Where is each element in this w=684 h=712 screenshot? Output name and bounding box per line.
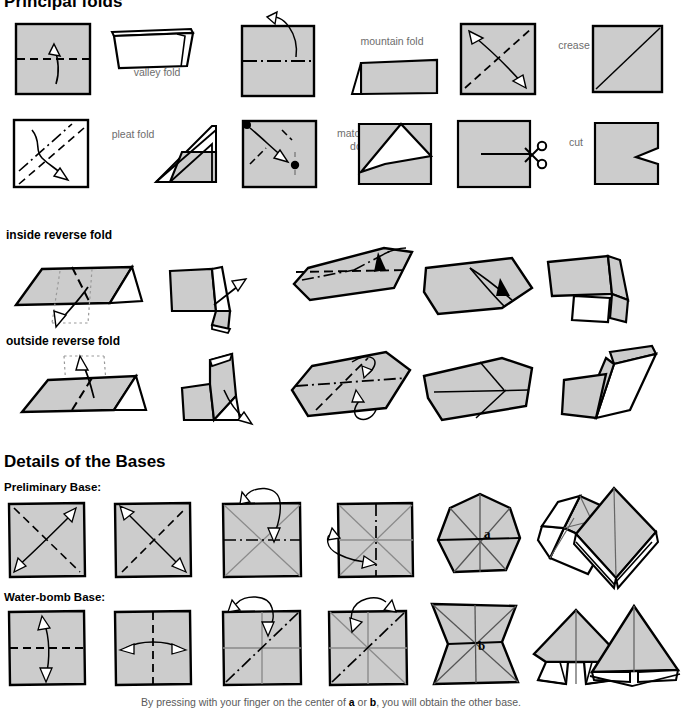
diagram-outside-reverse-step5: [560, 344, 660, 428]
diagram-waterbomb-step5: b: [428, 600, 522, 690]
diagram-valley-fold-step1: [14, 22, 94, 98]
diagram-waterbomb-step7: [588, 598, 684, 694]
diagram-crease-step1: [459, 22, 539, 98]
diagram-mountain-fold-step1: [239, 4, 325, 100]
diagram-outside-reverse-step3: [290, 344, 416, 434]
marker-a: a: [484, 526, 491, 541]
section-title-inside-reverse-fold: inside reverse fold: [6, 228, 112, 242]
diagram-preliminary-step5: a: [432, 488, 528, 582]
label-valley-fold: valley fold: [118, 66, 196, 79]
diagram-inside-reverse-step2: [168, 253, 274, 335]
diagram-waterbomb-step4: [324, 592, 414, 688]
page-title: Principal folds: [4, 0, 123, 12]
diagram-match-dots-step1: [240, 118, 320, 190]
diagram-crease-step2: [591, 24, 665, 96]
diagram-outside-reverse-step2: [180, 350, 290, 432]
subtitle-waterbomb-base: Water-bomb Base:: [4, 591, 105, 603]
diagram-inside-reverse-step1: [14, 253, 154, 333]
section-title-details-of-bases: Details of the Bases: [4, 452, 166, 472]
diagram-outside-reverse-step1: [20, 352, 160, 430]
diagram-inside-reverse-step3: [288, 240, 416, 330]
diagram-waterbomb-step3: [218, 592, 308, 688]
section-title-outside-reverse-fold: outside reverse fold: [6, 334, 120, 348]
diagram-inside-reverse-step4: [420, 252, 538, 328]
diagram-preliminary-step3: [218, 484, 308, 580]
label-mountain-fold: mountain fold: [349, 35, 435, 48]
diagram-pleat-fold-step2: [150, 120, 238, 188]
diagram-preliminary-step2: [112, 500, 196, 580]
diagram-preliminary-step4: [324, 500, 416, 582]
marker-b: b: [478, 638, 485, 653]
diagram-cut-step2: [592, 120, 664, 188]
diagram-inside-reverse-step5: [546, 250, 654, 330]
diagram-preliminary-step7: [570, 484, 664, 594]
subtitle-preliminary-base: Preliminary Base:: [4, 481, 101, 493]
diagram-mountain-fold-step2: [347, 54, 443, 98]
bases-caption: By pressing with your finger on the cent…: [0, 696, 662, 708]
label-cut: cut: [556, 136, 596, 149]
diagram-outside-reverse-step4: [420, 348, 538, 428]
diagram-cut-step1: [455, 118, 551, 190]
caption-pre: By pressing with your finger on the cent…: [141, 696, 349, 708]
diagram-preliminary-step1: [6, 500, 90, 580]
caption-post: , you will obtain the other base.: [376, 696, 521, 708]
diagram-waterbomb-step2: [112, 608, 196, 688]
diagram-pleat-fold-step1: [12, 118, 92, 190]
diagram-waterbomb-step1: [6, 608, 90, 688]
diagram-match-dots-step2: [355, 120, 437, 188]
caption-mid: or: [355, 696, 370, 708]
